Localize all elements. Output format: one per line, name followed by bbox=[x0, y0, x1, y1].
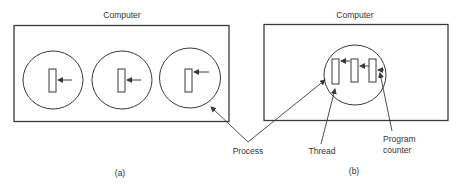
program-counter-label-line1: Program bbox=[383, 134, 416, 144]
thread-icon bbox=[332, 59, 339, 84]
process-circle-a3 bbox=[160, 48, 221, 108]
thread-label: Thread bbox=[309, 146, 336, 156]
panel-a: Computer (a) bbox=[14, 10, 229, 178]
thread-icon bbox=[118, 69, 125, 92]
process-callout: Process bbox=[211, 80, 325, 156]
process-label: Process bbox=[233, 146, 264, 156]
panel-b: Computer (b) bbox=[264, 10, 448, 176]
thread-icon bbox=[49, 69, 56, 92]
computer-box-b bbox=[264, 25, 448, 121]
computer-label-b: Computer bbox=[336, 10, 373, 20]
caption-a: (a) bbox=[115, 168, 126, 178]
thread-pointer bbox=[321, 89, 335, 144]
thread-icon bbox=[185, 69, 192, 92]
program-counter-label-line2: counter bbox=[383, 145, 412, 155]
thread-callout: Thread bbox=[309, 89, 336, 156]
process-pointer-b bbox=[248, 80, 325, 142]
process-circle-a1 bbox=[23, 51, 83, 109]
process-circle-a2 bbox=[92, 51, 152, 109]
thread-icon bbox=[351, 59, 358, 82]
computer-label-a: Computer bbox=[103, 10, 140, 20]
program-counter-pointer bbox=[380, 73, 392, 131]
thread-icon bbox=[369, 59, 376, 82]
process-thread-diagram: Computer (a) Computer bbox=[0, 0, 465, 184]
program-counter-callout: Program counter bbox=[380, 73, 416, 155]
caption-b: (b) bbox=[349, 166, 360, 176]
